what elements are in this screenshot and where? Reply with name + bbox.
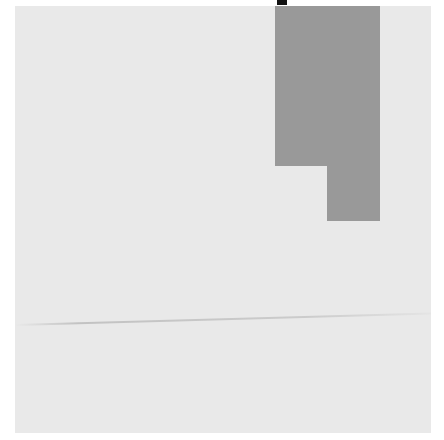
board-streak [15,312,431,326]
drop-position-marker [277,0,287,5]
game-board[interactable] [15,6,431,433]
l-piece-foot[interactable] [327,166,380,221]
l-piece-top[interactable] [275,6,380,166]
